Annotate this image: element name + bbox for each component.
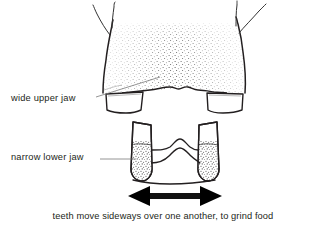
upper-jaw-left-branch — [93, 5, 110, 35]
upper-jaw-group — [93, 1, 266, 100]
lower-jaw-occlusal-wave — [152, 139, 198, 150]
arrow-shaft — [146, 193, 204, 199]
upper-jaw-right-branch — [239, 4, 266, 33]
arrow-head-right — [200, 186, 222, 206]
double-headed-arrow — [128, 186, 222, 206]
label-wide-upper-jaw: wide upper jaw — [11, 93, 76, 103]
figure-caption: teeth move sideways over one another, to… — [0, 211, 326, 221]
label-narrow-lower-jaw: narrow lower jaw — [11, 152, 84, 162]
figure-canvas: wide upper jaw narrow lower jaw teeth mo… — [0, 0, 326, 229]
jaw-anatomy-diagram — [0, 0, 326, 229]
upper-teeth-group — [106, 92, 243, 113]
lower-jaw-group — [128, 122, 225, 184]
arrow-head-left — [128, 186, 150, 206]
